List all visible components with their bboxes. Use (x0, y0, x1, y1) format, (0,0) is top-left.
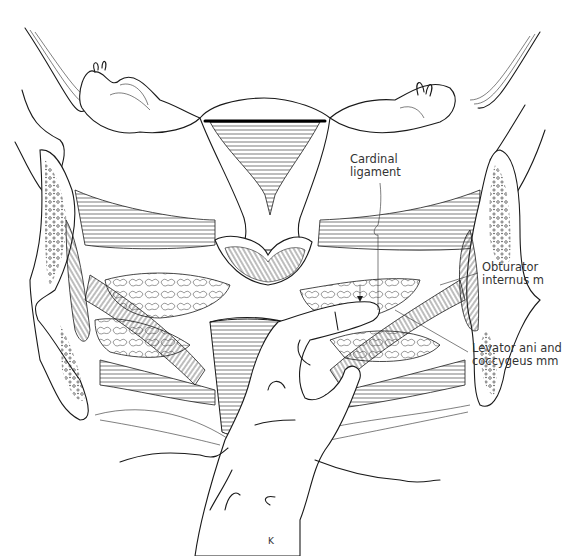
uterus (200, 98, 330, 285)
label-line: coccygeus mm (472, 355, 562, 368)
label-cardinal-ligament: Cardinal ligament (350, 153, 401, 179)
label-obturator-internus: Obturator internus m (482, 261, 544, 287)
left-pelvic-bone (30, 150, 90, 420)
right-ovary-and-tube (330, 83, 455, 133)
artist-signature: K (268, 536, 274, 546)
label-line: internus m (482, 274, 544, 287)
left-ovary-and-tube (80, 61, 200, 133)
label-levator-ani: Levator ani and coccygeus mm (472, 342, 562, 368)
anatomical-illustration: Cardinal ligament Obturator internus m L… (0, 0, 566, 556)
label-line: ligament (350, 166, 401, 179)
